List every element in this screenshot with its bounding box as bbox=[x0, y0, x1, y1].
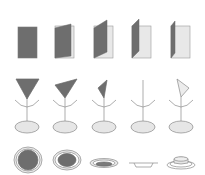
book-row bbox=[18, 19, 190, 58]
pointer-row bbox=[15, 79, 193, 133]
pointer-quarter-icon bbox=[53, 79, 77, 133]
plate-edge-on-icon bbox=[129, 163, 158, 167]
book-fully-open-icon bbox=[171, 21, 190, 58]
pointer-back-icon bbox=[169, 79, 193, 133]
book-half-open-icon bbox=[94, 20, 113, 58]
plate-tilted-icon bbox=[53, 150, 81, 170]
book-slightly-open-icon bbox=[55, 24, 74, 58]
plate-oblique-icon bbox=[90, 159, 118, 168]
pointer-side-icon bbox=[92, 80, 116, 133]
pointer-facing-front-icon bbox=[15, 79, 39, 133]
plate-top-view-icon bbox=[14, 147, 42, 173]
pointer-edge-on-icon bbox=[131, 80, 155, 133]
plate-upside-down-icon bbox=[167, 157, 195, 169]
figure-canvas bbox=[0, 0, 205, 175]
book-closed-icon bbox=[18, 27, 37, 58]
book-mostly-open-icon bbox=[132, 19, 151, 58]
plate-row bbox=[14, 147, 195, 173]
